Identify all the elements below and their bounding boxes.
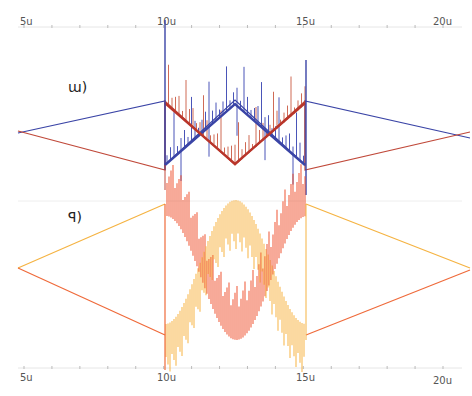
top-panel-plot <box>18 20 470 195</box>
series-orange <box>18 204 165 268</box>
top-panel-label: ɯ) <box>68 79 87 95</box>
bottom-tick-15u: 15u <box>296 372 315 383</box>
bottom-panel-label: ꟼ) <box>68 209 82 225</box>
top-tick-5u: 5u <box>20 16 33 27</box>
top-axis: 5u 10u 15u 20u <box>18 16 462 28</box>
top-spikes <box>167 65 305 185</box>
bottom-tick-10u: 10u <box>157 372 176 383</box>
bottom-axis: 5u 10u 15u 20u <box>18 366 462 386</box>
bottom-oscillation <box>166 164 305 372</box>
series-red-orange <box>18 268 165 335</box>
waveform-chart: 5u 10u 15u 20u 5u 10u 15u 20u ɯ) ꟼ) <box>0 0 472 396</box>
bottom-tick-5u: 5u <box>20 372 33 383</box>
bottom-panel-plot <box>18 164 470 372</box>
top-tick-20u: 20u <box>433 16 452 27</box>
top-tick-15u: 15u <box>296 16 315 27</box>
top-tick-10u: 10u <box>157 16 176 27</box>
bottom-tick-20u: 20u <box>433 375 452 386</box>
